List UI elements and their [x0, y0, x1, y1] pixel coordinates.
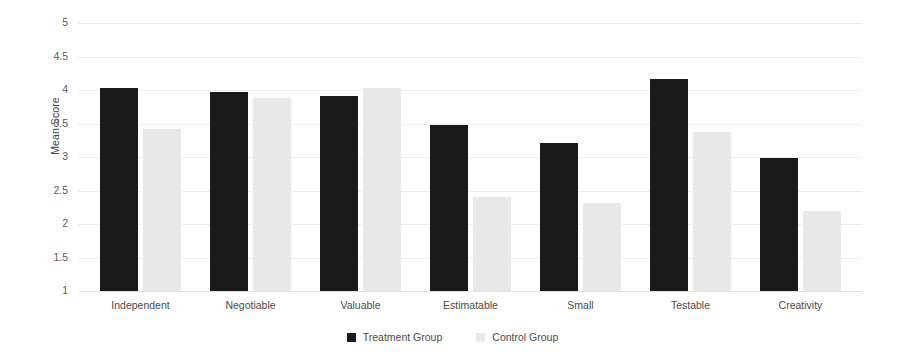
x-axis-category-label: Negotiable [191, 299, 311, 311]
x-axis-category-label: Estimatable [411, 299, 531, 311]
bar [760, 158, 798, 291]
gridline [78, 291, 862, 292]
legend-item[interactable]: Treatment Group [347, 331, 443, 343]
bar [430, 125, 468, 291]
bar [100, 88, 138, 291]
gridline [78, 57, 862, 58]
gridline [78, 191, 862, 192]
bar [320, 96, 358, 291]
bar [693, 132, 731, 291]
legend-label: Treatment Group [363, 331, 443, 343]
chart-legend: Treatment GroupControl Group [0, 331, 905, 343]
gridline [78, 124, 862, 125]
bar [540, 143, 578, 291]
y-axis-tick-label: 1 [28, 284, 68, 296]
y-axis-tick-label: 4.5 [28, 50, 68, 62]
gridline [78, 258, 862, 259]
x-axis-category-label: Small [521, 299, 641, 311]
y-axis-tick-label: 2 [28, 217, 68, 229]
gridline [78, 224, 862, 225]
bar [583, 203, 621, 291]
plot-area [78, 23, 862, 291]
y-axis-tick-label: 4 [28, 83, 68, 95]
x-axis-category-label: Independent [81, 299, 201, 311]
bar [210, 92, 248, 291]
bar [650, 79, 688, 291]
bar [473, 197, 511, 291]
bar [363, 88, 401, 291]
bar [143, 129, 181, 291]
y-axis-tick-label: 1.5 [28, 251, 68, 263]
x-axis-category-label: Testable [631, 299, 751, 311]
legend-swatch-icon [476, 333, 485, 342]
x-axis-category-label: Valuable [301, 299, 421, 311]
gridline [78, 90, 862, 91]
y-axis-tick-label: 3.5 [28, 117, 68, 129]
x-axis-category-label: Creativity [741, 299, 861, 311]
legend-swatch-icon [347, 333, 356, 342]
bar [803, 211, 841, 291]
y-axis-tick-label: 2.5 [28, 184, 68, 196]
bar [253, 98, 291, 291]
legend-label: Control Group [492, 331, 558, 343]
gridline [78, 157, 862, 158]
gridline [78, 23, 862, 24]
y-axis-tick-label: 5 [28, 16, 68, 28]
y-axis-tick-label: 3 [28, 150, 68, 162]
bar-chart: Mean Score 54.543.532.521.51 Independent… [0, 0, 905, 363]
legend-item[interactable]: Control Group [476, 331, 558, 343]
